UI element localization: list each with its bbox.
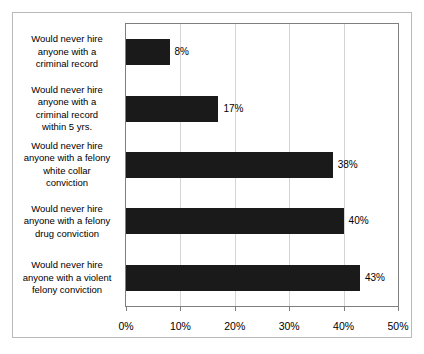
x-axis-tick-mark <box>180 307 181 311</box>
bar-value-label: 43% <box>365 265 385 291</box>
category-label: Would never hireanyone with acriminal re… <box>13 33 126 71</box>
x-axis-tick-label: 20% <box>215 320 255 332</box>
category-label-line: white collar <box>13 165 121 178</box>
chart-category-row: Would never hireanyone with acriminal re… <box>126 24 398 80</box>
category-label-line: criminal record <box>13 109 121 122</box>
bar-value-label: 40% <box>349 208 369 234</box>
x-axis-tick-label: 30% <box>269 320 309 332</box>
category-label-line: criminal record <box>13 58 121 71</box>
bar <box>126 208 344 234</box>
x-axis-tick-mark <box>289 307 290 311</box>
chart-frame: Would never hireanyone with acriminal re… <box>12 12 412 338</box>
category-label-line: Would never hire <box>13 259 121 272</box>
category-label: Would never hireanyone with acriminal re… <box>13 84 126 134</box>
category-label-line: anyone with a felony <box>13 152 121 165</box>
category-label: Would never hireanyone with a felonywhit… <box>13 140 126 190</box>
bar <box>126 96 218 122</box>
chart-category-row: Would never hireanyone with acriminal re… <box>126 80 398 136</box>
x-axis-tick-mark <box>126 307 127 311</box>
category-label-line: anyone with a <box>13 96 121 109</box>
bar <box>126 265 360 291</box>
category-label-line: felony conviction <box>13 284 121 297</box>
chart-plot-area: Would never hireanyone with acriminal re… <box>125 23 399 307</box>
bar-value-label: 17% <box>223 96 243 122</box>
x-axis-tick-mark <box>235 307 236 311</box>
category-label-line: within 5 yrs. <box>13 121 121 134</box>
x-axis-tick-label: 40% <box>324 320 364 332</box>
x-axis-tick-label: 10% <box>160 320 200 332</box>
category-label-line: conviction <box>13 177 121 190</box>
bar <box>126 39 170 65</box>
category-label: Would never hireanyone with a felonydrug… <box>13 203 126 241</box>
category-label-line: Would never hire <box>13 33 121 46</box>
category-label-line: drug conviction <box>13 228 121 241</box>
category-label-line: anyone with a violent <box>13 272 121 285</box>
x-axis-tick-label: 0% <box>106 320 146 332</box>
x-axis-tick-mark <box>344 307 345 311</box>
bar-value-label: 38% <box>338 152 358 178</box>
chart-category-row: Would never hireanyone with a felonywhit… <box>126 137 398 193</box>
x-axis-tick-mark <box>398 307 399 311</box>
category-label-line: Would never hire <box>13 203 121 216</box>
bar-value-label: 8% <box>175 39 189 65</box>
category-label-line: anyone with a <box>13 46 121 59</box>
chart-category-row: Would never hireanyone with a violentfel… <box>126 250 398 306</box>
bar <box>126 152 333 178</box>
category-label-line: Would never hire <box>13 84 121 97</box>
chart-category-row: Would never hireanyone with a felonydrug… <box>126 193 398 249</box>
x-axis-tick-label: 50% <box>378 320 418 332</box>
category-label-line: Would never hire <box>13 140 121 153</box>
category-label: Would never hireanyone with a violentfel… <box>13 259 126 297</box>
category-label-line: anyone with a felony <box>13 215 121 228</box>
